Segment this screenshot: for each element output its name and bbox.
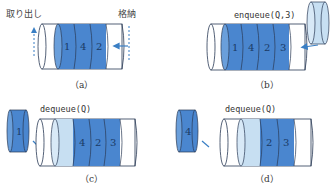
removed-item: 4	[185, 126, 191, 137]
panel-a: 取り出し 格納 1 4 2 （a）	[6, 8, 136, 90]
queue-item: 1	[64, 41, 70, 52]
queue-item: 3	[283, 137, 289, 148]
queue-item: 4	[79, 137, 85, 148]
queue-item: 4	[248, 42, 254, 53]
caption-d: （d）	[255, 174, 279, 184]
panel-b: enqueue(Q,3) 1 4 2 3 （b）	[207, 2, 329, 90]
operation-label: dequeue(Q)	[40, 104, 91, 114]
queue-item: 2	[95, 137, 101, 148]
queue-item: 2	[96, 41, 102, 52]
dequeue-arrow-icon	[202, 141, 209, 147]
queue-diagram: 取り出し 格納 1 4 2 （a） enqueue(Q,3) 1 4 2	[0, 0, 331, 192]
queue-item: 3	[280, 42, 286, 53]
enqueue-side-label: 格納	[118, 8, 136, 19]
queue-item: 2	[266, 137, 272, 148]
queue-item: 2	[264, 42, 270, 53]
queue-item: 4	[80, 41, 86, 52]
operation-label: enqueue(Q,3)	[234, 10, 295, 20]
panel-d: dequeue(Q) 4 2 3 （d）	[176, 104, 313, 184]
enqueue-arrow-icon	[304, 45, 318, 47]
panel-c: dequeue(Q) 1 4 2 3 （c）	[7, 104, 137, 184]
queue-item: 1	[232, 42, 238, 53]
caption-a: （a）	[70, 80, 93, 90]
operation-label: dequeue(Q)	[225, 104, 276, 114]
caption-c: （c）	[80, 174, 103, 184]
queue-item: 3	[110, 137, 116, 148]
dequeue-side-label: 取り出し	[6, 8, 42, 19]
caption-b: （b）	[255, 80, 279, 90]
removed-item: 1	[16, 126, 22, 137]
